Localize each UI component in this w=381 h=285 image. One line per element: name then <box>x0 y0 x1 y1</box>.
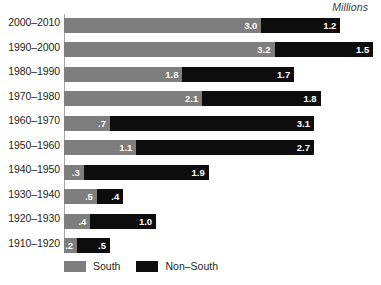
legend-item-south: South <box>64 260 120 272</box>
bar-segment-non-south: 3.1 <box>110 116 314 131</box>
stacked-bar: .31.9 <box>64 165 209 180</box>
legend-item-non-south: Non–South <box>136 260 218 272</box>
bar-row: 1940–1950.31.9 <box>0 161 381 186</box>
bar-row: 2000–20103.01.2 <box>0 14 381 39</box>
bar-value-label: .4 <box>78 215 86 228</box>
bar-segment-south: 2.1 <box>64 91 202 106</box>
bar-row: 1950–19601.12.7 <box>0 137 381 162</box>
bar-segment-non-south: 1.0 <box>90 214 156 229</box>
bar-value-label: .5 <box>98 239 106 252</box>
category-label: 1980–1990 <box>0 65 60 77</box>
bar-segment-south: 3.0 <box>64 18 261 33</box>
bar-segment-south: .4 <box>64 214 90 229</box>
bar-segment-non-south: 1.8 <box>202 91 320 106</box>
bar-segment-south: 3.2 <box>64 42 275 57</box>
category-label: 1930–1940 <box>0 188 60 200</box>
bar-value-label: 3.1 <box>297 117 310 130</box>
legend-swatch-south-icon <box>64 261 86 272</box>
bar-segment-non-south: 1.7 <box>182 67 294 82</box>
bar-value-label: .7 <box>98 117 106 130</box>
legend-label-non-south: Non–South <box>165 260 218 272</box>
bar-segment-non-south: 1.5 <box>275 42 374 57</box>
category-label: 1960–1970 <box>0 114 60 126</box>
legend-swatch-non-south-icon <box>136 261 158 272</box>
bar-segment-non-south: .4 <box>97 189 123 204</box>
stacked-bar: .73.1 <box>64 116 314 131</box>
bar-row: 1970–19802.11.8 <box>0 88 381 113</box>
stacked-bar: .41.0 <box>64 214 156 229</box>
bar-value-label: 3.2 <box>257 43 270 56</box>
bar-value-label: .2 <box>65 239 73 252</box>
bar-segment-non-south: 2.7 <box>136 140 314 155</box>
bar-segment-non-south: 1.2 <box>261 18 340 33</box>
stacked-bar: 3.21.5 <box>64 42 373 57</box>
bar-segment-south: .7 <box>64 116 110 131</box>
stacked-bar: .5.4 <box>64 189 123 204</box>
stacked-bar: 3.01.2 <box>64 18 340 33</box>
category-label: 2000–2010 <box>0 16 60 28</box>
bar-value-label: 1.8 <box>303 92 316 105</box>
bar-value-label: 2.1 <box>185 92 198 105</box>
bar-row: 1910–1920.2.5 <box>0 235 381 260</box>
category-label: 1940–1950 <box>0 163 60 175</box>
stacked-bar: 1.12.7 <box>64 140 314 155</box>
bar-row: 1930–1940.5.4 <box>0 186 381 211</box>
bar-value-label: 1.5 <box>356 43 369 56</box>
bar-value-label: 1.7 <box>277 68 290 81</box>
legend-label-south: South <box>93 260 120 272</box>
bar-segment-south: 1.1 <box>64 140 136 155</box>
bar-row: 1920–1930.41.0 <box>0 210 381 235</box>
category-label: 1990–2000 <box>0 41 60 53</box>
bar-segment-non-south: .5 <box>77 238 110 253</box>
units-label: Millions <box>332 1 368 13</box>
category-label: 1950–1960 <box>0 139 60 151</box>
bar-value-label: 1.1 <box>119 141 132 154</box>
bar-segment-south: .3 <box>64 165 84 180</box>
bar-value-label: 1.0 <box>139 215 152 228</box>
stacked-bar-chart: Millions 2000–20103.01.21990–20003.21.51… <box>0 0 381 285</box>
bar-value-label: .4 <box>111 190 119 203</box>
bar-segment-south: .2 <box>64 238 77 253</box>
category-label: 1920–1930 <box>0 212 60 224</box>
category-label: 1910–1920 <box>0 237 60 249</box>
bar-segment-non-south: 1.9 <box>84 165 209 180</box>
bar-value-label: .5 <box>85 190 93 203</box>
category-label: 1970–1980 <box>0 90 60 102</box>
stacked-bar: 1.81.7 <box>64 67 294 82</box>
bar-value-label: 1.9 <box>192 166 205 179</box>
bar-segment-south: .5 <box>64 189 97 204</box>
plot-area: 2000–20103.01.21990–20003.21.51980–19901… <box>0 14 381 252</box>
bar-row: 1960–1970.73.1 <box>0 112 381 137</box>
bar-value-label: 3.0 <box>244 19 257 32</box>
bar-row: 1990–20003.21.5 <box>0 39 381 64</box>
bar-row: 1980–19901.81.7 <box>0 63 381 88</box>
bar-value-label: 1.8 <box>165 68 178 81</box>
bar-value-label: 2.7 <box>297 141 310 154</box>
bar-value-label: 1.2 <box>323 19 336 32</box>
bar-segment-south: 1.8 <box>64 67 182 82</box>
chart-legend: South Non–South <box>64 258 234 274</box>
stacked-bar: .2.5 <box>64 238 110 253</box>
stacked-bar: 2.11.8 <box>64 91 321 106</box>
bar-value-label: .3 <box>72 166 80 179</box>
